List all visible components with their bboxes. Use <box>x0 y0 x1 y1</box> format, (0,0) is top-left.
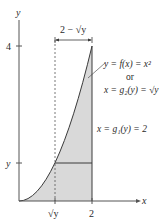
curve-label-g2: x = g₂(y) = √y <box>103 85 159 96</box>
curve-label-or: or <box>126 72 135 82</box>
width-label: 2 − √y <box>60 24 86 35</box>
figure-canvas: y x 4 y √y 2 2 − √y y = f(x) = x² or x =… <box>0 0 165 224</box>
shaded-region <box>19 46 92 201</box>
x-axis-label: x <box>141 195 147 206</box>
x-tick-label-2: 2 <box>89 208 94 219</box>
x-axis-arrow-icon <box>136 199 141 203</box>
arrowhead-right-icon <box>88 39 92 42</box>
y-tick-label-y: y <box>5 158 11 169</box>
arrowhead-left-icon <box>55 39 59 42</box>
y-tick-label-4: 4 <box>6 41 11 52</box>
curve-label-fx: y = f(x) = x² <box>103 59 151 70</box>
vertical-line-label-g1: x = g₁(y) = 2 <box>96 124 147 135</box>
y-axis-label: y <box>15 7 21 18</box>
x-tick-label-sqrty: √y <box>48 208 59 219</box>
